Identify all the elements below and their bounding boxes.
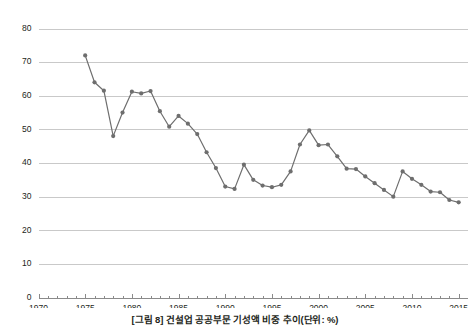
y-tick-label: 40 <box>22 157 32 167</box>
chart-plot-area: 01020304050607080 1970197519801985199019… <box>0 0 470 308</box>
data-point <box>223 184 227 188</box>
data-point <box>120 110 124 114</box>
y-tick-label: 20 <box>22 225 32 235</box>
x-tick-label: 2005 <box>356 303 375 309</box>
data-point <box>251 178 255 182</box>
x-tick-label: 1985 <box>169 303 188 309</box>
data-point <box>419 183 423 187</box>
data-point <box>139 91 143 95</box>
data-point <box>382 188 386 192</box>
data-point <box>232 187 236 191</box>
data-point <box>289 169 293 173</box>
data-point <box>111 134 115 138</box>
data-point <box>260 183 264 187</box>
x-axis-line-group <box>39 294 469 299</box>
data-point <box>167 125 171 129</box>
y-tick-label: 0 <box>27 292 32 302</box>
data-point <box>102 89 106 93</box>
data-point <box>204 150 208 154</box>
data-point <box>335 154 339 158</box>
data-point <box>148 89 152 93</box>
line-chart: 01020304050607080 1970197519801985199019… <box>0 0 470 308</box>
data-point <box>158 109 162 113</box>
data-point <box>176 114 180 118</box>
data-point <box>429 189 433 193</box>
x-axis-tick-labels: 1970197519801985199019952000200520102015 <box>29 303 468 309</box>
x-tick-label: 2000 <box>309 303 328 309</box>
x-tick-label: 1980 <box>122 303 141 309</box>
series-marker-group <box>83 53 461 204</box>
data-point <box>354 167 358 171</box>
data-point <box>457 200 461 204</box>
x-tick-label: 1995 <box>262 303 281 309</box>
figure-caption: [그림 8] 건설업 공공부문 기성액 비중 추이(단위: %) <box>0 312 470 326</box>
data-point <box>317 143 321 147</box>
data-point <box>298 142 302 146</box>
x-tick-label: 1975 <box>76 303 95 309</box>
data-point <box>307 128 311 132</box>
data-point <box>130 90 134 94</box>
data-point <box>363 174 367 178</box>
x-tick-label: 1970 <box>29 303 48 309</box>
data-point <box>391 195 395 199</box>
data-point <box>92 80 96 84</box>
x-tick-label: 1990 <box>216 303 235 309</box>
y-tick-label: 80 <box>22 23 32 33</box>
series-line-group <box>85 55 458 202</box>
data-point <box>447 198 451 202</box>
data-point <box>270 185 274 189</box>
data-point <box>326 142 330 146</box>
y-tick-label: 50 <box>22 124 32 134</box>
y-axis-tick-labels: 01020304050607080 <box>22 23 32 302</box>
y-tick-label: 30 <box>22 191 32 201</box>
data-point <box>242 163 246 167</box>
data-point <box>438 190 442 194</box>
data-point <box>186 122 190 126</box>
data-point <box>279 183 283 187</box>
series-line-0 <box>85 55 458 202</box>
data-point <box>410 177 414 181</box>
data-point <box>195 132 199 136</box>
x-tick-label: 2010 <box>403 303 422 309</box>
data-point <box>214 166 218 170</box>
data-point <box>83 53 87 57</box>
x-tick-label: 2015 <box>449 303 468 309</box>
gridlines-group <box>39 30 469 265</box>
y-tick-label: 10 <box>22 258 32 268</box>
data-point <box>345 167 349 171</box>
figure-container: 01020304050607080 1970197519801985199019… <box>0 0 470 335</box>
y-tick-label: 60 <box>22 90 32 100</box>
data-point <box>401 169 405 173</box>
data-point <box>373 181 377 185</box>
y-tick-label: 70 <box>22 56 32 66</box>
